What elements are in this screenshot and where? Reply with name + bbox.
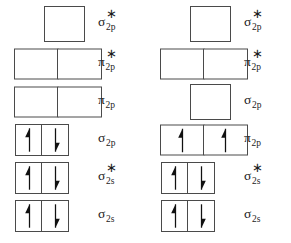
orbital-box[interactable] xyxy=(15,200,43,232)
orbital-box-group xyxy=(161,200,215,232)
orbital-label: σ2s xyxy=(244,207,260,224)
orbital-box[interactable] xyxy=(14,49,59,80)
orbital-symbol: π xyxy=(98,92,105,107)
orbital-symbol: σ xyxy=(98,168,105,183)
orbital-label: σ2p∗ xyxy=(244,15,261,32)
orbital-box[interactable] xyxy=(160,125,205,156)
orbital-symbol: σ xyxy=(98,130,105,145)
orbital-label: σ2p∗ xyxy=(98,15,115,32)
electron-arrow-up xyxy=(25,203,34,229)
orbital-box[interactable] xyxy=(190,6,231,42)
electron-pair xyxy=(16,125,42,155)
orbital-row-sigma-2p-star: σ2p∗ xyxy=(0,4,145,44)
orbital-box[interactable] xyxy=(41,124,69,156)
orbital-box-group xyxy=(14,49,102,80)
orbital-subscript: 2p xyxy=(106,62,116,72)
orbital-box-group xyxy=(161,162,215,194)
orbital-box-group xyxy=(15,162,69,194)
orbital-subscript: 2s xyxy=(252,176,260,186)
orbital-box[interactable] xyxy=(41,162,69,194)
orbital-row-sigma-2s-star: σ2s∗ xyxy=(146,158,291,198)
orbital-subscript: 2p xyxy=(106,100,116,110)
orbital-symbol: π xyxy=(244,54,251,69)
orbital-symbol: π xyxy=(244,130,251,145)
electron-arrow-up xyxy=(25,165,34,191)
orbital-box[interactable] xyxy=(57,87,102,118)
orbital-subscript: 2p xyxy=(252,62,262,72)
electron-arrow-down xyxy=(51,165,60,191)
orbital-row-pi-2p-star: π2p∗ xyxy=(0,44,145,84)
orbital-row-sigma-2s-star: σ2s∗ xyxy=(0,158,145,198)
orbital-box-group xyxy=(190,6,231,42)
orbital-box[interactable] xyxy=(160,49,205,80)
orbital-row-sigma-2p: σ2p xyxy=(146,82,291,122)
orbital-subscript: 2p xyxy=(252,138,262,148)
electron-arrow-up xyxy=(221,127,230,153)
electron-arrow-up xyxy=(25,127,34,153)
orbital-label: σ2s∗ xyxy=(98,169,114,186)
orbital-row-sigma-2p: σ2p xyxy=(0,120,145,160)
orbital-box-group xyxy=(160,125,248,156)
orbital-subscript: 2p xyxy=(252,22,262,32)
electron-pair xyxy=(42,201,68,231)
electron-pair xyxy=(161,126,204,155)
electron-pair xyxy=(188,163,214,193)
mo-diagram-left: σ2p∗π2p∗π2pσ2pσ2s∗σ2s xyxy=(0,0,145,243)
electron-pair xyxy=(42,163,68,193)
electron-arrow-up xyxy=(178,127,187,153)
orbital-row-pi-2p: π2p xyxy=(0,82,145,122)
orbital-box[interactable] xyxy=(187,200,215,232)
orbital-subscript: 2p xyxy=(106,22,116,32)
electron-arrow-down xyxy=(51,203,60,229)
orbital-box[interactable] xyxy=(57,49,102,80)
orbital-box[interactable] xyxy=(203,125,248,156)
electron-arrow-up xyxy=(171,165,180,191)
orbital-label: σ2p xyxy=(98,131,115,148)
orbital-box-group xyxy=(15,124,69,156)
orbital-box[interactable] xyxy=(161,200,189,232)
orbital-row-pi-2p: π2p xyxy=(146,120,291,160)
electron-arrow-down xyxy=(51,127,60,153)
electron-pair xyxy=(42,125,68,155)
orbital-symbol: σ xyxy=(244,168,251,183)
electron-pair xyxy=(16,163,42,193)
orbital-symbol: σ xyxy=(244,92,251,107)
orbital-box[interactable] xyxy=(44,6,85,42)
orbital-subscript: 2s xyxy=(252,214,260,224)
electron-pair xyxy=(204,126,247,155)
orbital-label: π2p∗ xyxy=(244,55,261,72)
orbital-subscript: 2s xyxy=(106,176,114,186)
orbital-symbol: σ xyxy=(244,206,251,221)
orbital-subscript: 2s xyxy=(106,214,114,224)
orbital-box[interactable] xyxy=(14,87,59,118)
orbital-box-group xyxy=(44,6,85,42)
mo-diagram-right: σ2p∗π2p∗σ2pπ2pσ2s∗σ2s xyxy=(146,0,291,243)
orbital-box[interactable] xyxy=(203,49,248,80)
electron-pair xyxy=(162,201,188,231)
electron-pair xyxy=(16,201,42,231)
orbital-box[interactable] xyxy=(187,162,215,194)
electron-pair xyxy=(188,201,214,231)
orbital-box[interactable] xyxy=(15,162,43,194)
orbital-box[interactable] xyxy=(190,84,231,120)
orbital-subscript: 2p xyxy=(252,100,262,110)
orbital-box[interactable] xyxy=(41,200,69,232)
orbital-box[interactable] xyxy=(15,124,43,156)
orbital-box-group xyxy=(14,87,102,118)
mo-diagram-container: σ2p∗π2p∗π2pσ2pσ2s∗σ2sσ2p∗π2p∗σ2pπ2pσ2s∗σ… xyxy=(0,0,291,243)
orbital-box-group xyxy=(160,49,248,80)
orbital-box-group xyxy=(15,200,69,232)
orbital-symbol: π xyxy=(98,54,105,69)
orbital-label: π2p xyxy=(98,93,115,110)
electron-arrow-up xyxy=(171,203,180,229)
orbital-symbol: σ xyxy=(244,14,251,29)
orbital-label: π2p xyxy=(244,131,261,148)
orbital-row-sigma-2s: σ2s xyxy=(0,196,145,236)
orbital-label: σ2s∗ xyxy=(244,169,260,186)
orbital-label: π2p∗ xyxy=(98,55,115,72)
orbital-box-group xyxy=(190,84,231,120)
orbital-symbol: σ xyxy=(98,14,105,29)
orbital-box[interactable] xyxy=(161,162,189,194)
electron-pair xyxy=(162,163,188,193)
orbital-label: σ2s xyxy=(98,207,114,224)
